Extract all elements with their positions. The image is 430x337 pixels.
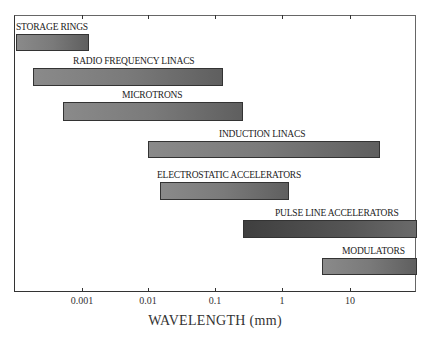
- bar-label: PULSE LINE ACCELERATORS: [275, 208, 399, 218]
- range-bar: [148, 141, 380, 158]
- range-bar: [160, 182, 289, 200]
- x-axis-label: WAVELENGTH (mm): [0, 313, 430, 329]
- x-tick-label: 10: [345, 295, 355, 306]
- bar-label: MODULATORS: [342, 246, 405, 256]
- x-tick-mark-top: [215, 15, 216, 19]
- bar-label: MICROTRONS: [122, 90, 182, 100]
- bar-label: RADIO FREQUENCY LINACS: [73, 56, 194, 66]
- wavelength-range-chart: STORAGE RINGSRADIO FREQUENCY LINACSMICRO…: [0, 0, 430, 337]
- x-tick-label: 0.001: [71, 295, 94, 306]
- x-tick-label: 0.1: [209, 295, 222, 306]
- x-tick-mark: [215, 288, 216, 292]
- x-tick-mark: [282, 288, 283, 292]
- x-tick-mark-top: [148, 15, 149, 19]
- bar-label: ELECTROSTATIC ACCELERATORS: [157, 170, 301, 180]
- x-tick-mark: [82, 288, 83, 292]
- x-tick-mark-top: [350, 15, 351, 19]
- range-bar: [16, 34, 89, 51]
- x-tick-mark-top: [282, 15, 283, 19]
- x-tick-label: 1: [280, 295, 285, 306]
- bar-label: STORAGE RINGS: [16, 22, 88, 32]
- range-bar: [33, 68, 223, 86]
- range-bar: [243, 220, 417, 238]
- x-tick-label: 0.01: [139, 295, 157, 306]
- x-tick-mark: [350, 288, 351, 292]
- x-tick-mark: [148, 288, 149, 292]
- bar-label: INDUCTION LINACS: [219, 129, 305, 139]
- range-bar: [322, 258, 417, 275]
- range-bar: [63, 102, 243, 121]
- x-tick-mark-top: [82, 15, 83, 19]
